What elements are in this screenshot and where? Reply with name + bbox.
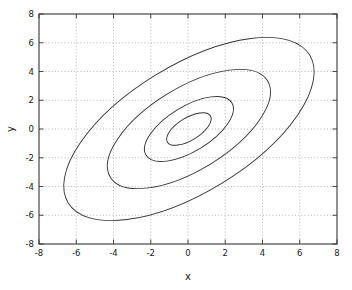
x-tick-label: -6 (72, 248, 80, 258)
y-tick-label: -4 (26, 182, 34, 192)
y-tick-label: 6 (29, 38, 34, 48)
y-tick-label: 0 (29, 124, 34, 134)
x-tick-label: -8 (35, 248, 43, 258)
x-tick-label: -4 (109, 248, 117, 258)
y-tick-label: 2 (29, 95, 34, 105)
y-tick-label: 8 (29, 9, 34, 19)
y-tick-label: -2 (26, 153, 34, 163)
x-tick-label: -2 (147, 248, 155, 258)
x-tick-label: 2 (223, 248, 228, 258)
y-tick-label: -8 (26, 239, 34, 249)
y-axis-title: y (5, 126, 16, 132)
chart-figure: 8 6 4 2 0 -2 -4 -6 -8 -8 -6 -4 -2 0 2 4 … (0, 0, 352, 290)
contour-plot: 8 6 4 2 0 -2 -4 -6 -8 -8 -6 -4 -2 0 2 4 … (0, 0, 352, 290)
y-tick-label: -6 (26, 210, 34, 220)
x-tick-label: 8 (334, 248, 339, 258)
x-tick-label: 0 (185, 248, 190, 258)
y-tick-labels: 8 6 4 2 0 -2 -4 -6 -8 (26, 9, 34, 249)
x-tick-label: 6 (297, 248, 302, 258)
x-tick-labels: -8 -6 -4 -2 0 2 4 6 8 (35, 248, 340, 258)
x-tick-label: 4 (260, 248, 265, 258)
x-axis-title: x (185, 271, 191, 282)
y-tick-label: 4 (29, 67, 34, 77)
